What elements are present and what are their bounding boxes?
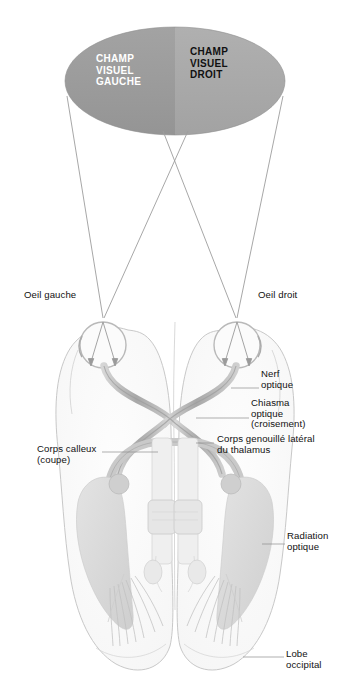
lgn-left (109, 474, 129, 494)
label-eye-left: Oeil gauche (24, 290, 76, 301)
label-eye-right: Oeil droit (258, 290, 297, 301)
ray-right-outer (237, 96, 283, 318)
ray-left-inner-to-right-eye (163, 131, 236, 318)
brainstem-midline (144, 438, 206, 592)
label-optic-nerve: Nerf optique (261, 369, 293, 390)
ray-right-inner-to-left-eye (104, 131, 188, 318)
visual-field-left-label: CHAMP VISUEL GAUCHE (96, 53, 141, 88)
label-lateral-geniculate-body: Corps genouillé latéral du thalamus (217, 434, 315, 455)
lgn-right (221, 474, 241, 494)
anatomy-illustration (0, 0, 349, 699)
label-occipital-lobe: Lobe occipital (286, 649, 322, 670)
visual-field-right-label: CHAMP VISUEL DROIT (190, 46, 228, 81)
eyeballs (79, 322, 261, 368)
ray-left-outer (67, 96, 103, 318)
label-optic-radiation: Radiation optique (287, 531, 328, 552)
label-optic-chiasm: Chiasma optique (croisement) (251, 398, 306, 430)
label-corpus-callosum: Corps calleux (coupe) (37, 444, 96, 465)
eye-left (80, 322, 126, 368)
eye-right (214, 322, 260, 368)
visual-pathway-diagram: CHAMP VISUEL GAUCHE CHAMP VISUEL DROIT O… (0, 0, 349, 699)
visual-field-ellipse (60, 25, 290, 139)
